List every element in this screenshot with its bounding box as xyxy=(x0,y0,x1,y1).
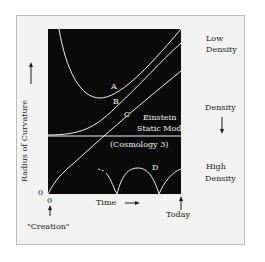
curve-label-b: B xyxy=(113,97,119,106)
static-model-line3: (Cosmology 3) xyxy=(110,140,168,149)
y-axis-label: Radius of Curvature xyxy=(20,100,29,182)
curve-label-a: A xyxy=(111,82,117,91)
creation-label: "Creation" xyxy=(27,222,70,231)
static-model-line1: Einstein xyxy=(143,113,176,122)
static-model-line2: Static Model xyxy=(137,124,189,133)
low-density-line2: Density xyxy=(206,45,237,54)
curve-a xyxy=(59,29,181,98)
x-axis-label: Time xyxy=(96,198,116,207)
curve-label-c: C xyxy=(124,110,130,119)
high-density-line2: Density xyxy=(205,174,236,183)
high-density-line1: High xyxy=(206,162,226,171)
curve-d-dashed xyxy=(98,169,104,171)
density-label: Density xyxy=(205,103,236,112)
today-label: Today xyxy=(166,210,190,219)
x-origin-label: 0 xyxy=(47,196,52,205)
y-origin-label: 0 xyxy=(38,188,43,197)
low-density-line1: Low xyxy=(206,34,223,43)
curve-label-d: D xyxy=(152,163,158,172)
curve-d xyxy=(106,168,181,194)
